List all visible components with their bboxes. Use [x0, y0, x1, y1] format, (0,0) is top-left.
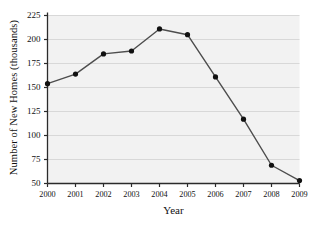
data-point-marker	[213, 74, 218, 79]
y-axis-tick-label: 50	[15, 179, 41, 188]
x-axis-tick-label: 2009	[283, 190, 312, 199]
data-point-marker	[269, 163, 274, 168]
y-axis-tick-label: 225	[15, 11, 41, 20]
plot-background	[48, 16, 300, 184]
x-axis-title: Year	[47, 204, 300, 216]
data-point-marker	[129, 48, 134, 53]
line-chart: Number of New Homes (thousands) 50751001…	[0, 0, 311, 226]
y-axis-tick-label: 150	[15, 83, 41, 92]
data-point-marker	[73, 71, 78, 76]
data-point-marker	[101, 51, 106, 56]
y-axis-tick-label: 175	[15, 59, 41, 68]
data-point-marker	[45, 81, 50, 86]
data-point-marker	[241, 117, 246, 122]
data-point-marker	[185, 32, 190, 37]
data-point-marker	[297, 178, 302, 183]
data-point-marker	[157, 26, 162, 31]
y-axis-tick-label: 125	[15, 107, 41, 116]
y-axis-tick-label: 100	[15, 131, 41, 140]
y-axis-tick-label: 200	[15, 35, 41, 44]
y-axis-tick-label: 75	[15, 155, 41, 164]
